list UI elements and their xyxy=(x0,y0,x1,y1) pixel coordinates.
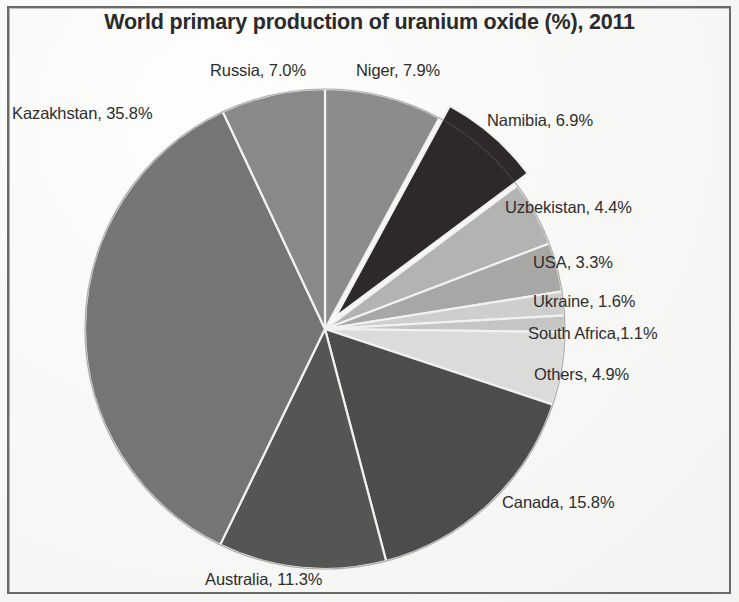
slice-label-south-africa: South Africa,1.1% xyxy=(528,324,657,343)
slice-label-ukraine: Ukraine, 1.6% xyxy=(533,292,635,311)
slice-label-usa: USA, 3.3% xyxy=(533,253,613,272)
pie-slice-group: Niger, 7.9%Namibia, 6.9%Uzbekistan, 4.4%… xyxy=(85,89,565,569)
slice-label-others: Others, 4.9% xyxy=(534,365,629,384)
slice-label-niger: Niger, 7.9% xyxy=(356,61,440,80)
slice-label-russia: Russia, 7.0% xyxy=(210,61,306,80)
slice-label-namibia: Namibia, 6.9% xyxy=(487,111,593,130)
slice-label-australia: Australia, 11.3% xyxy=(205,570,322,589)
chart-page: World primary production of uranium oxid… xyxy=(0,0,739,602)
slice-label-canada: Canada, 15.8% xyxy=(502,493,614,512)
slice-label-uzbekistan: Uzbekistan, 4.4% xyxy=(505,198,632,217)
slice-label-kazakhstan: Kazakhstan, 35.8% xyxy=(12,104,152,123)
